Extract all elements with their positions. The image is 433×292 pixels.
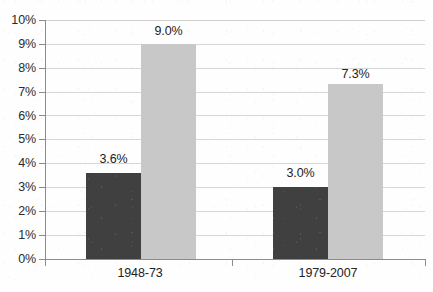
gridline [45, 20, 425, 21]
y-axis-label: 6% [0, 109, 36, 123]
y-axis-label: 2% [0, 204, 36, 218]
x-axis-tick [45, 260, 46, 266]
y-axis-label: 1% [0, 228, 36, 242]
bar-1948-73-dark [86, 173, 141, 259]
data-label-1979-2007-light: 7.3% [328, 67, 383, 81]
bar-chart: 10% 9% 8% 7% 6% 5% 4% 3% 2% 1% 0% [0, 0, 433, 292]
bar-1979-2007-dark [273, 187, 328, 259]
y-axis-label: 3% [0, 180, 36, 194]
y-axis-label: 0% [0, 252, 36, 266]
bar-1979-2007-light [328, 84, 383, 259]
y-axis-label: 4% [0, 156, 36, 170]
x-axis-tick [425, 260, 426, 266]
y-axis-line [45, 20, 46, 260]
y-axis-label: 7% [0, 85, 36, 99]
plot-area [45, 20, 425, 259]
data-label-1948-73-dark: 3.6% [86, 152, 141, 166]
y-axis-label: 5% [0, 132, 36, 146]
y-axis-label: 10% [0, 13, 36, 27]
bar-1948-73-light [141, 44, 196, 259]
data-label-1979-2007-dark: 3.0% [273, 166, 328, 180]
x-axis-category-label-2: 1979-2007 [273, 266, 383, 280]
x-axis-tick [232, 260, 233, 266]
y-axis-label: 9% [0, 37, 36, 51]
y-axis-label: 8% [0, 61, 36, 75]
data-label-1948-73-light: 9.0% [141, 24, 196, 38]
x-axis-category-label-1: 1948-73 [85, 266, 195, 280]
y-axis-labels: 10% 9% 8% 7% 6% 5% 4% 3% 2% 1% 0% [0, 0, 36, 292]
gridline [45, 44, 425, 45]
x-axis-line [45, 259, 426, 260]
